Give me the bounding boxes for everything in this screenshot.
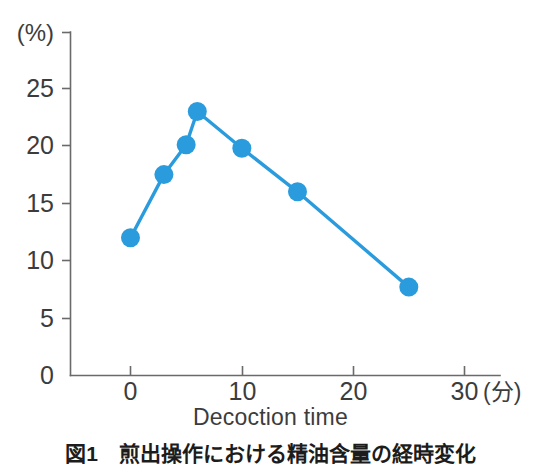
y-tick-label-5: 5 [40, 304, 54, 332]
data-point-marker [399, 278, 418, 297]
x-axis-title: Decoction time [0, 404, 541, 431]
y-tick-label-0: 0 [40, 361, 54, 389]
chart-plot-area: 25 20 15 10 5 0 (%) 0 10 20 30 (分) Decoc… [0, 0, 541, 400]
x-tick-label-0: 0 [124, 377, 138, 405]
data-point-marker [188, 102, 207, 121]
data-point-marker [232, 139, 251, 158]
x-axis-ticks [131, 366, 465, 376]
y-axis-ticks [62, 33, 71, 319]
y-tick-label-20: 20 [26, 131, 54, 159]
x-tick-label-30: 30 [451, 377, 479, 405]
y-tick-label-15: 15 [26, 189, 54, 217]
data-point-marker [121, 228, 140, 247]
figure-caption: 図1 煎出操作における精油含量の経時変化 [0, 437, 541, 467]
data-point-marker [288, 182, 307, 201]
y-axis-unit-label: (%) [17, 19, 54, 46]
x-axis-unit-label: (分) [483, 379, 521, 405]
y-tick-label-10: 10 [26, 246, 54, 274]
series-polyline [131, 111, 409, 287]
line-chart-svg: 25 20 15 10 5 0 (%) 0 10 20 30 (分) [0, 0, 541, 400]
y-tick-label-25: 25 [26, 74, 54, 102]
x-tick-label-20: 20 [340, 377, 368, 405]
series-markers [121, 102, 418, 297]
data-point-marker [154, 165, 173, 184]
data-point-marker [177, 135, 196, 154]
x-tick-label-10: 10 [229, 377, 257, 405]
